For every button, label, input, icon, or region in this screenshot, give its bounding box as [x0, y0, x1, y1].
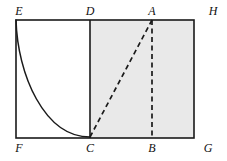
vertex-label-g: G — [204, 142, 213, 154]
vertex-label-a: A — [148, 5, 155, 17]
vertex-label-f: F — [15, 142, 22, 154]
vertex-label-d: D — [86, 5, 95, 17]
vertex-label-e: E — [15, 5, 22, 17]
diagram-canvas — [0, 0, 227, 161]
vertex-label-h: H — [209, 5, 218, 17]
geometry-figure: E D A H F C B G — [0, 0, 227, 161]
vertex-label-b: B — [148, 142, 155, 154]
curve-ec — [16, 20, 90, 137]
vertex-label-c: C — [86, 142, 94, 154]
